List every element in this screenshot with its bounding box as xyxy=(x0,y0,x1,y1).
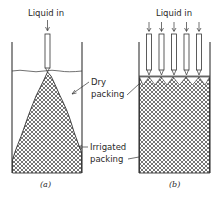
panel-a-feed-pipe xyxy=(45,34,50,68)
panel-a-inlet-arrow-icon xyxy=(46,20,50,31)
panel-b-feed-1 xyxy=(147,22,152,75)
panel-a-irrigated-packing xyxy=(13,72,82,173)
inlet-arrow-icon xyxy=(160,22,164,32)
irrigated-packing-label-line2: packing xyxy=(90,154,123,164)
nozzle xyxy=(197,70,201,75)
nozzle xyxy=(147,70,151,75)
panel-b: Liquid in (b) xyxy=(139,8,210,189)
feed-pipe xyxy=(184,34,189,70)
nozzle xyxy=(172,70,176,75)
feed-pipe xyxy=(147,34,152,70)
nozzle xyxy=(160,70,164,75)
inlet-arrow-icon xyxy=(197,22,201,32)
panel-b-irrigated-packing xyxy=(140,77,210,173)
packed-column-diagram: Liquid in (a) Dry packing Irrigated pack… xyxy=(0,0,220,198)
dry-packing-leader-a xyxy=(72,82,89,94)
dry-packing-leader-b xyxy=(127,84,139,95)
feed-pipe xyxy=(197,34,202,70)
panel-b-feed-5 xyxy=(197,22,202,75)
panel-a-liquid-in-label: Liquid in xyxy=(28,8,64,18)
panel-a: Liquid in (a) xyxy=(12,8,82,189)
panel-b-liquid-in-label: Liquid in xyxy=(156,8,192,18)
dry-packing-label-line2: packing xyxy=(91,89,124,99)
panel-b-feed-3 xyxy=(172,22,177,75)
irrigated-packing-leader-b xyxy=(128,157,139,159)
panel-b-feed-2 xyxy=(159,22,164,75)
panel-b-caption: (b) xyxy=(169,180,180,189)
feed-pipe xyxy=(159,34,164,70)
irrigated-packing-label-line1: Irrigated xyxy=(90,142,126,152)
inlet-arrow-icon xyxy=(147,22,151,32)
nozzle xyxy=(185,70,189,75)
panel-a-caption: (a) xyxy=(40,180,51,189)
panel-b-feed-4 xyxy=(184,22,189,75)
panel-b-feed-pipes xyxy=(147,22,202,75)
dry-packing-label-line1: Dry xyxy=(91,77,106,87)
inlet-arrow-icon xyxy=(172,22,176,32)
feed-pipe xyxy=(172,34,177,70)
inlet-arrow-icon xyxy=(185,22,189,32)
irrigated-packing-callout: Irrigated packing xyxy=(79,142,139,164)
